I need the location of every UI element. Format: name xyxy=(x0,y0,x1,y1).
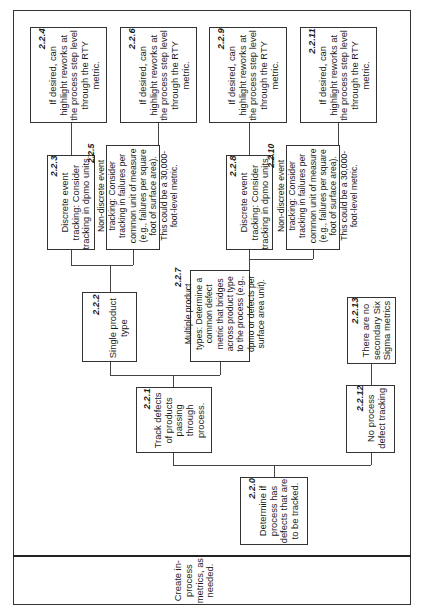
connector xyxy=(173,465,371,466)
node-text: secondary Six xyxy=(372,297,383,363)
node-id: 2.2.7 xyxy=(173,268,183,360)
node-text: No process xyxy=(365,385,376,451)
node-text: common unit of measure xyxy=(308,143,318,247)
node-2-2-10: 2.2.10 Non-discrete event tracking: Cons… xyxy=(286,145,340,250)
node-id: 2.2.6 xyxy=(126,28,137,122)
node-text: tracking in failures per xyxy=(117,143,127,247)
node-2-2-1: 2.2.1 Track defects of products passing … xyxy=(136,387,212,453)
connector xyxy=(371,453,372,465)
node-text: highlight reworks at xyxy=(58,28,69,122)
connector xyxy=(71,250,72,265)
node-2-2-2: 2.2.2 Single product type xyxy=(82,292,137,362)
node-2-2-12: 2.2.12 No process defect tracking xyxy=(346,385,395,453)
connector xyxy=(249,259,313,260)
node-text: If desired, can xyxy=(226,28,237,122)
node-text: Single product xyxy=(107,294,118,362)
connector xyxy=(133,250,134,265)
node-text: If desired, can xyxy=(317,28,328,122)
node-2-2-5: 2.2.5 Non-discrete event tracking: Consi… xyxy=(106,145,160,250)
node-text: types: Determine a xyxy=(194,268,204,360)
node-text: Sigma metrics xyxy=(382,297,393,363)
node-id: 2.2.10 xyxy=(266,143,276,247)
node-text: Determine if xyxy=(258,478,269,544)
node-text: If desired, can xyxy=(137,28,148,122)
row-label-text: needed. xyxy=(206,551,217,611)
node-id: 2.2.5 xyxy=(86,143,96,247)
node-text: (e.g., failures per square xyxy=(318,143,328,247)
node-text: foot-level metric. xyxy=(169,143,179,247)
node-2-2-6: 2.2.6 If desired, can highlight reworks … xyxy=(120,27,197,123)
connector xyxy=(220,362,221,375)
connector xyxy=(173,375,174,387)
connector xyxy=(110,362,111,375)
node-id: 2.2.4 xyxy=(36,28,47,122)
node-text: Multiple product xyxy=(184,268,194,360)
node-text: tracking in failures per xyxy=(297,143,307,247)
node-2-2-7: 2.2.7 Multiple product types: Determine … xyxy=(190,270,250,362)
node-text: common defect xyxy=(204,268,214,360)
node-id: 2.2.13 xyxy=(350,297,361,363)
node-2-2-4: 2.2.4 If desired, can highlight reworks … xyxy=(30,27,107,123)
connector xyxy=(274,465,275,477)
node-text: foot of surface area). xyxy=(329,143,339,247)
node-text: Discrete event xyxy=(239,155,250,249)
row-label-text: process xyxy=(184,551,195,611)
node-text: common unit of measure xyxy=(128,143,138,247)
node-text: Discrete event xyxy=(60,155,71,249)
node-text: This could be a 30,000- xyxy=(159,143,169,247)
node-text: metric. xyxy=(90,28,101,122)
connector xyxy=(110,265,111,292)
node-text: the process step level xyxy=(159,28,170,122)
node-text: through the RTY xyxy=(169,28,180,122)
node-text: through the RTY xyxy=(79,28,90,122)
node-id: 2.2.2 xyxy=(90,294,101,362)
node-text: This could be a 30,000- xyxy=(339,143,349,247)
node-text: the process step level xyxy=(69,28,80,122)
node-text: tracking: Consider xyxy=(250,155,261,249)
node-text: process. xyxy=(196,388,207,452)
node-2-2-0: 2.2.0 Determine if process has defects t… xyxy=(240,477,308,545)
node-text: foot of surface area). xyxy=(149,143,159,247)
node-text: across product type xyxy=(225,268,235,360)
node-text: Non-discrete event xyxy=(97,143,107,247)
node-text: (e.g., failures per square xyxy=(138,143,148,247)
connector xyxy=(71,123,72,155)
node-id: 2.2.12 xyxy=(354,385,365,451)
connector xyxy=(71,265,133,266)
connector xyxy=(158,123,159,145)
node-text: Non-discrete event xyxy=(277,143,287,247)
row-label: Create in- process metrics, as needed. xyxy=(13,557,411,605)
node-text: highlight reworks at xyxy=(148,28,159,122)
node-2-2-9: 2.2.9 If desired, can highlight reworks … xyxy=(209,27,287,123)
connector xyxy=(338,123,339,145)
node-text: foot-level metric. xyxy=(349,143,359,247)
node-text: to be tracked. xyxy=(290,478,301,544)
node-text: metric that bridges xyxy=(215,268,225,360)
node-text: There are no xyxy=(361,297,372,363)
connector xyxy=(249,123,250,155)
node-2-2-13: 2.2.13 There are no secondary Six Sigma … xyxy=(347,297,396,364)
connector xyxy=(173,453,174,465)
node-text: surface area unit). xyxy=(256,268,266,360)
node-text: metric. xyxy=(180,28,191,122)
node-text: metric. xyxy=(270,28,281,122)
node-text: the process step level xyxy=(339,28,350,122)
node-2-2-11: 2.2.11 If desired, can highlight reworks… xyxy=(300,27,377,123)
node-text: to the process (e.g., xyxy=(236,268,246,360)
connector xyxy=(313,250,314,259)
node-text: through the RTY xyxy=(349,28,360,122)
node-text: tracking: Consider xyxy=(107,143,117,247)
node-text: Track defects xyxy=(152,388,163,452)
connector xyxy=(371,364,372,385)
node-text: metric. xyxy=(360,28,371,122)
node-text: If desired, can xyxy=(47,28,58,122)
connector xyxy=(110,375,220,376)
node-id: 2.2.11 xyxy=(306,28,317,122)
node-text: defect tracking xyxy=(376,385,387,451)
node-text: tracking: Consider xyxy=(287,143,297,247)
node-text: highlight reworks at xyxy=(328,28,339,122)
node-text: dpmo or defects per xyxy=(246,268,256,360)
node-text: type xyxy=(118,294,129,362)
node-id: 2.2.8 xyxy=(228,155,239,249)
